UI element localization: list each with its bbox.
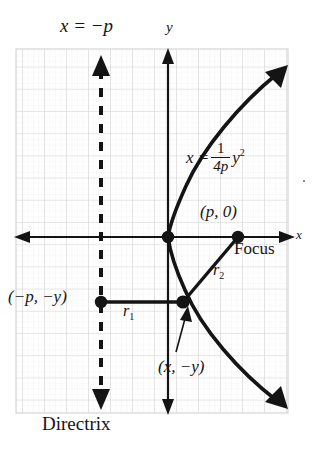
directrix-equation-label: x = −p bbox=[60, 16, 113, 35]
directrix-coordinates-label: (−p, −y) bbox=[8, 288, 67, 305]
vertex-point bbox=[162, 231, 174, 243]
parabola-figure: x = −p y x x =14py2 (p, 0) Focus (−p, −y… bbox=[0, 0, 320, 453]
curve-point bbox=[176, 295, 189, 308]
equation-numerator: 1 bbox=[211, 141, 230, 157]
equation-lhs: x = bbox=[186, 148, 209, 167]
scan-speck bbox=[303, 180, 305, 182]
r1-subscript: 1 bbox=[129, 311, 134, 322]
x-axis-label: x bbox=[296, 228, 302, 241]
focus-word-label: Focus bbox=[234, 240, 275, 257]
equation-variable: y bbox=[232, 148, 240, 167]
directrix-point bbox=[95, 296, 107, 308]
y-axis-label: y bbox=[166, 20, 173, 35]
equation-denominator: 4p bbox=[211, 158, 230, 175]
r2-subscript: 2 bbox=[219, 270, 224, 281]
equation-exponent: 2 bbox=[240, 147, 245, 158]
directrix-word-label: Directrix bbox=[42, 414, 111, 433]
focus-coordinates-label: (p, 0) bbox=[200, 203, 237, 220]
r2-label: r2 bbox=[213, 262, 224, 281]
curve-point-coordinates-label: (x, −y) bbox=[158, 358, 204, 375]
equation-fraction: 14p bbox=[211, 141, 230, 174]
r1-label: r1 bbox=[123, 303, 134, 322]
parabola-diagram-svg bbox=[0, 0, 320, 453]
parabola-equation-label: x =14py2 bbox=[186, 142, 245, 175]
